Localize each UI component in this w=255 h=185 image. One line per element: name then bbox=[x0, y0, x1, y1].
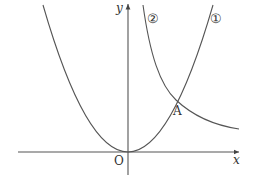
point-a-label: A bbox=[173, 105, 182, 117]
coordinate-diagram: y x O ② ① A bbox=[0, 0, 255, 185]
diagram-svg bbox=[0, 0, 255, 185]
curve-1-label: ① bbox=[210, 12, 222, 25]
origin-label: O bbox=[114, 155, 124, 167]
x-axis-label: x bbox=[233, 154, 240, 166]
y-axis-label: y bbox=[116, 2, 123, 14]
curve-2-label: ② bbox=[147, 12, 159, 25]
